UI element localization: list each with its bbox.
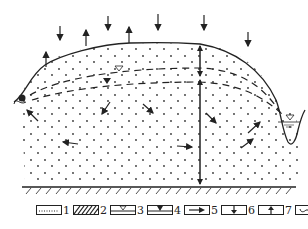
legend-item-1: 1 [36, 205, 72, 216]
legend: 1 2 3 4 5 6 7 [36, 203, 308, 217]
dotted-line-symbol-icon [36, 205, 62, 215]
legend-item-3: 3 [110, 205, 146, 216]
legend-item-4: 4 [147, 205, 183, 216]
legend-number: 3 [137, 205, 144, 216]
base-hatching [26, 188, 291, 194]
aquifer-body [18, 43, 300, 180]
flow-arrow-right-icon [184, 205, 210, 215]
legend-item-6: 6 [221, 205, 257, 216]
infiltration-arrows [60, 14, 248, 46]
spring-symbol-icon [295, 205, 308, 215]
legend-number: 6 [248, 205, 255, 216]
legend-item-7: 7 [258, 205, 294, 216]
legend-item-8: 8 [295, 205, 308, 216]
legend-number: 4 [174, 205, 181, 216]
hatched-symbol-icon [73, 205, 99, 215]
legend-number: 5 [211, 205, 218, 216]
legend-item-5: 5 [184, 205, 220, 216]
legend-number: 2 [100, 205, 107, 216]
legend-item-2: 2 [73, 205, 109, 216]
arrow-down-icon [221, 205, 247, 215]
hydrogeology-diagram [0, 0, 308, 229]
legend-number: 7 [285, 205, 292, 216]
arrow-up-icon [258, 205, 284, 215]
legend-number: 1 [63, 205, 70, 216]
filled-triangle-water-table-icon [147, 205, 173, 215]
open-triangle-water-table-icon [110, 205, 136, 215]
spring-icon [19, 95, 26, 102]
